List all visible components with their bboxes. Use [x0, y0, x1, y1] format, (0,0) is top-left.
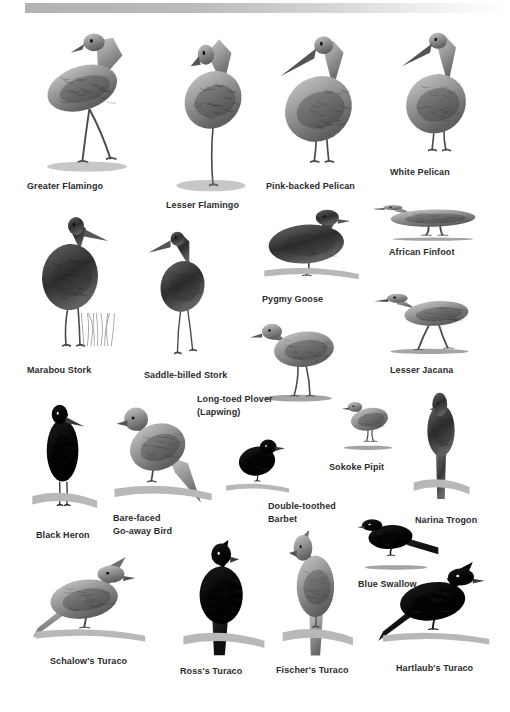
species-caption-pink-backed-pelican: Pink-backed Pelican — [266, 181, 355, 192]
species-caption-fischers-turaco: Fischer's Turaco — [276, 665, 349, 676]
species-caption-sokoke-pipit: Sokoke Pipit — [329, 462, 384, 473]
species-caption-white-pelican: White Pelican — [390, 167, 450, 178]
species-caption-lesser-flamingo: Lesser Flamingo — [166, 200, 239, 211]
bird-illustration-bare-faced-go-away-bird — [108, 396, 216, 512]
bird-illustration-pygmy-goose — [258, 200, 363, 288]
bird-illustration-saddle-billed-stork — [140, 222, 225, 362]
bird-illustration-lesser-jacana — [372, 283, 487, 359]
species-caption-african-finfoot: African Finfoot — [389, 247, 455, 258]
bird-illustration-greater-flamingo — [28, 26, 146, 174]
species-caption-bare-faced-go-away-bird: Bare-facedGo-away Bird — [113, 512, 172, 537]
bird-illustration-fischers-turaco — [278, 530, 356, 658]
bird-illustration-pink-backed-pelican — [268, 26, 373, 174]
bird-illustration-plate: Greater FlamingoLesser FlamingoPink-back… — [0, 0, 510, 712]
species-caption-saddle-billed-stork: Saddle-billed Stork — [144, 370, 227, 381]
bird-illustration-african-finfoot — [374, 196, 492, 244]
bird-illustration-lesser-flamingo — [160, 26, 262, 194]
bird-illustration-white-pelican — [388, 26, 488, 160]
species-caption-pygmy-goose: Pygmy Goose — [262, 294, 323, 305]
species-caption-greater-flamingo: Greater Flamingo — [27, 181, 103, 192]
bird-illustration-marabou-stork — [22, 208, 122, 358]
bird-illustration-narina-trogon — [410, 388, 472, 506]
species-caption-double-toothed-barbet: Double-toothedBarbet — [268, 500, 336, 525]
bird-plate-page: Greater FlamingoLesser FlamingoPink-back… — [0, 0, 510, 712]
bird-illustration-schalows-turaco — [28, 555, 150, 651]
bird-illustration-double-toothed-barbet — [222, 428, 292, 500]
species-caption-black-heron: Black Heron — [36, 530, 90, 541]
species-caption-schalows-turaco: Schalow's Turaco — [50, 656, 127, 667]
species-caption-hartlaubs-turaco: Hartlaub's Turaco — [396, 663, 473, 674]
bird-illustration-hartlaubs-turaco — [376, 560, 494, 654]
bird-illustration-rosss-turaco — [178, 540, 268, 660]
species-caption-rosss-turaco: Ross's Turaco — [180, 666, 242, 677]
bird-illustration-black-heron — [28, 400, 100, 520]
species-caption-marabou-stork: Marabou Stork — [27, 365, 91, 376]
bird-illustration-sokoke-pipit — [332, 392, 404, 454]
species-caption-lesser-jacana: Lesser Jacana — [390, 365, 453, 376]
